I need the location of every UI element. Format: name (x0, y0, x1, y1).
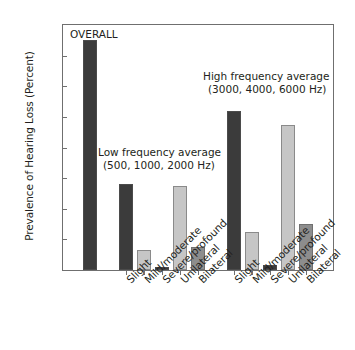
annotation-high-frequency-line1: High frequency average (203, 70, 329, 83)
bar-overall-0 (83, 40, 96, 270)
annotation-low-frequency-line1: Low frequency average (98, 146, 221, 159)
annotation-low-frequency-line2: (500, 1000, 2000 Hz) (103, 159, 215, 172)
bar-slight-6 (227, 111, 240, 270)
hearing-loss-bar-chart: Prevalence of Hearing Loss (Percent) 024… (0, 0, 355, 350)
bar-slight-1 (119, 184, 132, 270)
y-axis-title: Prevalence of Hearing Loss (Percent) (23, 21, 35, 271)
annotation-high-frequency-line2: (3000, 4000, 6000 Hz) (208, 83, 326, 96)
annotation-overall: OVERALL (70, 28, 118, 41)
